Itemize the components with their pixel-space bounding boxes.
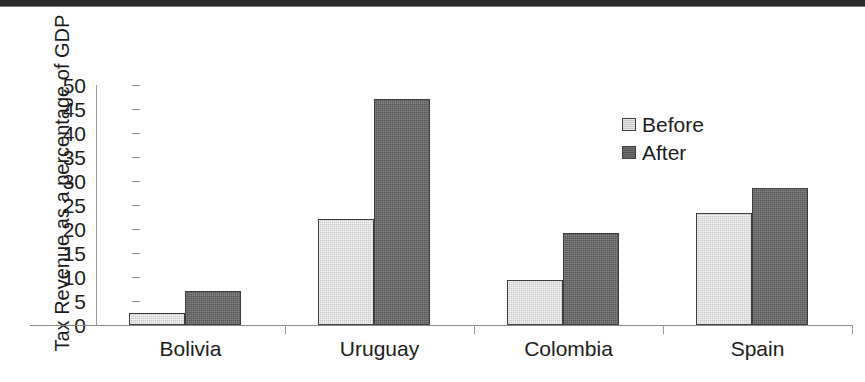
y-axis-tick-50: 50 (63, 75, 86, 96)
bar-colombia-after[interactable] (563, 233, 619, 325)
chart-page: Tax Revenue as a percentage of GDP 50454… (0, 0, 865, 382)
y-axis-tick-35: 35 (63, 147, 86, 168)
bar-uruguay-after[interactable] (374, 99, 430, 325)
bar-spain-after[interactable] (752, 188, 808, 325)
x-axis-separator-2 (474, 325, 475, 334)
x-axis-separator-1 (285, 325, 286, 334)
x-axis-label-spain: Spain (731, 337, 785, 361)
chart-legend: Before After (622, 110, 704, 166)
x-axis-label-bolivia: Bolivia (160, 337, 222, 361)
x-axis-separator-end (852, 325, 853, 334)
x-axis-label-uruguay: Uruguay (340, 337, 419, 361)
legend-swatch-after-icon (622, 146, 636, 159)
bar-bolivia-after[interactable] (185, 291, 241, 325)
legend-item-before[interactable]: Before (622, 110, 704, 138)
bar-chart: Tax Revenue as a percentage of GDP 50454… (0, 0, 865, 382)
bar-uruguay-before[interactable] (318, 219, 374, 325)
bar-colombia-before[interactable] (507, 280, 563, 325)
y-axis-tick-5: 5 (74, 291, 86, 312)
legend-label-before: Before (642, 114, 704, 135)
legend-label-after: After (642, 142, 686, 163)
y-axis-tick-40: 40 (63, 123, 86, 144)
bar-group-bolivia (96, 85, 285, 325)
y-axis-tick-45: 45 (63, 99, 86, 120)
y-axis-tick-20: 20 (63, 219, 86, 240)
y-axis-tick-30: 30 (63, 171, 86, 192)
y-axis-tick-10: 10 (63, 267, 86, 288)
bar-bolivia-before[interactable] (129, 313, 185, 325)
y-axis-tick-labels: 50454035302520151050 (44, 85, 86, 325)
y-axis-tick-15: 15 (63, 243, 86, 264)
bar-group-uruguay (285, 85, 474, 325)
x-axis-label-colombia: Colombia (524, 337, 613, 361)
bar-spain-before[interactable] (696, 213, 752, 325)
legend-swatch-before-icon (622, 118, 636, 131)
y-axis-tick-25: 25 (63, 195, 86, 216)
legend-item-after[interactable]: After (622, 138, 704, 166)
plot-area (96, 85, 852, 325)
x-axis-separator-3 (663, 325, 664, 334)
x-axis-line (30, 325, 852, 326)
